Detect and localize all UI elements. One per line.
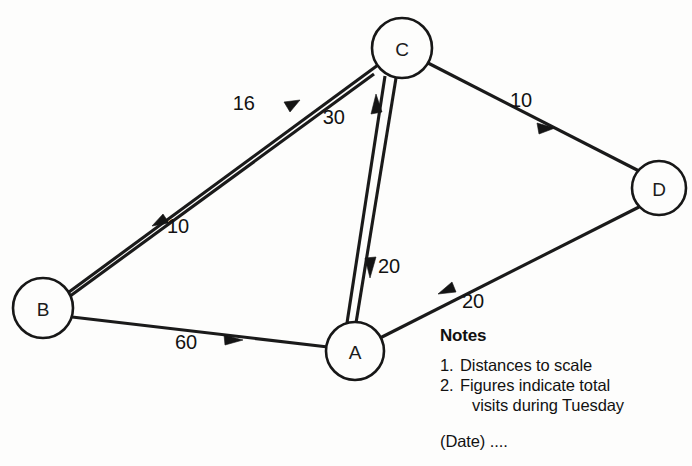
edge-b-c-group bbox=[62, 65, 378, 302]
note-item-1: 1. Distances to scale bbox=[440, 355, 690, 375]
edge-b-to-a-line bbox=[72, 317, 328, 347]
note-item-2-number: 2. bbox=[440, 375, 460, 395]
note-item-2: 2. Figures indicate total visits during … bbox=[440, 375, 690, 415]
edge-a-c-group bbox=[347, 76, 396, 323]
note-item-1-number: 1. bbox=[440, 355, 460, 375]
edge-label-b-to-c: 16 bbox=[233, 92, 255, 114]
node-d-label: D bbox=[652, 179, 666, 200]
arrowhead-b-to-c bbox=[284, 100, 300, 112]
edge-label-c-to-d: 10 bbox=[510, 89, 532, 111]
node-c-label: C bbox=[395, 39, 409, 60]
node-a-label: A bbox=[349, 342, 362, 363]
node-b-label: B bbox=[37, 299, 50, 320]
edge-c-d-group bbox=[428, 63, 641, 172]
node-b[interactable]: B bbox=[13, 278, 73, 338]
edge-c-to-d-line bbox=[428, 63, 641, 172]
edge-b-to-c-line bbox=[69, 65, 378, 292]
date-line: (Date) .... bbox=[440, 432, 690, 451]
edge-label-d-to-a: 20 bbox=[462, 290, 484, 312]
diagram-page: C D B A 16 10 30 20 10 20 60 Notes 1. Di… bbox=[0, 0, 692, 466]
node-a[interactable]: A bbox=[326, 322, 384, 380]
note-item-2-line-1: Figures indicate total bbox=[460, 376, 610, 394]
edge-c-to-a-line bbox=[356, 78, 396, 323]
note-item-1-text: Distances to scale bbox=[460, 355, 690, 375]
node-c[interactable]: C bbox=[372, 18, 432, 78]
notes-block: Notes 1. Distances to scale 2. Figures i… bbox=[440, 326, 690, 451]
edge-label-c-to-b: 10 bbox=[167, 215, 189, 237]
notes-heading: Notes bbox=[440, 326, 690, 346]
edge-b-a-group bbox=[72, 317, 328, 347]
edge-label-b-to-a: 60 bbox=[175, 331, 197, 353]
edge-a-to-c-line bbox=[347, 76, 385, 323]
edge-label-c-to-a: 20 bbox=[378, 255, 400, 277]
node-d[interactable]: D bbox=[632, 161, 686, 215]
note-item-2-text: Figures indicate total visits during Tue… bbox=[460, 375, 690, 415]
note-item-2-line-2: visits during Tuesday bbox=[460, 395, 690, 415]
edge-d-a-group bbox=[380, 207, 639, 338]
edge-d-to-a-line bbox=[380, 207, 639, 338]
arrowhead-c-to-a bbox=[365, 257, 376, 278]
edge-label-a-to-c: 30 bbox=[323, 106, 345, 128]
arrowhead-d-to-a bbox=[438, 282, 456, 294]
